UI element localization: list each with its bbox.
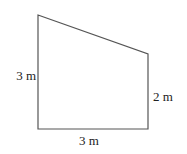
trapezoid-diagram: 3 m 2 m 3 m <box>0 0 187 154</box>
left-side-label: 3 m <box>16 68 36 83</box>
trapezoid-shape <box>38 15 148 129</box>
bottom-side-label: 3 m <box>79 133 99 148</box>
right-side-label: 2 m <box>153 89 173 104</box>
